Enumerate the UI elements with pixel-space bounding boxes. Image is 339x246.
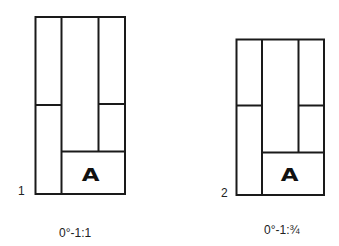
figure-1-number: 1 <box>18 185 25 197</box>
figure-2-number: 2 <box>221 187 228 199</box>
figure-1-caption: 0°-1:1 <box>59 227 91 239</box>
figure-1-panel-a-label: A <box>82 167 100 184</box>
figure-2-caption: 0°-1:¾ <box>264 224 299 236</box>
figure-2-panel-a-label: A <box>281 167 299 184</box>
figure-1-layout <box>36 17 126 194</box>
layout-diagrams <box>0 0 339 246</box>
